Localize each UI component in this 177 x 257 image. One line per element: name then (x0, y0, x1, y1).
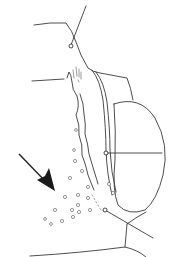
parallel-line-1 (92, 70, 112, 195)
anatomical-illustration (0, 0, 177, 257)
left-contour (32, 79, 64, 81)
middle-seta-base (104, 151, 108, 155)
inner-margin-left (67, 72, 94, 190)
bottom-contour (30, 247, 146, 257)
lower-seta (105, 210, 153, 238)
upper-seta-base (69, 44, 73, 48)
lower-vertical-contour (125, 224, 127, 247)
lower-right-contour (127, 212, 146, 224)
line-drawing (0, 0, 177, 257)
comb-structure (73, 67, 81, 82)
upper-seta (71, 6, 86, 45)
arrow-head (37, 168, 55, 191)
dotted-suture (92, 195, 101, 210)
parallel-line-2 (96, 72, 116, 192)
oval-sclerite (114, 101, 165, 212)
lower-seta-base (103, 208, 107, 212)
upper-contour (34, 23, 133, 100)
